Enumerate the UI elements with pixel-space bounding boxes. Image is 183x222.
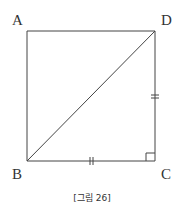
vertex-label-b: B bbox=[12, 166, 22, 182]
figure-caption: [그림 26] bbox=[73, 192, 110, 203]
vertex-label-c: C bbox=[161, 166, 171, 182]
vertex-label-d: D bbox=[161, 12, 172, 28]
right-angle-mark bbox=[146, 153, 155, 161]
diagonal-bd bbox=[27, 31, 155, 161]
geometry-figure: A D B C [그림 26] bbox=[0, 0, 183, 222]
vertex-label-a: A bbox=[12, 12, 23, 28]
